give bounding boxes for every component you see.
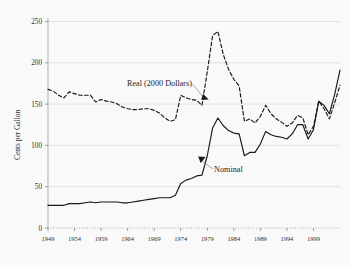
- series-line-nominal: [48, 70, 340, 205]
- x-tick-label-1969: 1969: [148, 235, 161, 242]
- x-tick-label-1999: 1999: [307, 235, 320, 242]
- y-axis-title: Cents per Gallon: [13, 110, 22, 160]
- y-tick-label-50: 50: [35, 183, 43, 191]
- x-tick-label-1989: 1989: [254, 235, 267, 242]
- x-tick-label-1959: 1959: [95, 235, 108, 242]
- y-tick-label-150: 150: [31, 101, 42, 109]
- y-tick-label-250: 250: [31, 18, 42, 26]
- annotation-real-label: Real (2000 Dollars): [127, 79, 192, 88]
- y-tick-label-200: 200: [31, 59, 42, 67]
- chart-canvas: 250 200 150 100 50 0 Cents per Gallon 19…: [0, 0, 350, 267]
- y-tick-label-0: 0: [38, 225, 42, 233]
- x-tick-label-1994: 1994: [281, 235, 295, 242]
- gridlines: [48, 22, 340, 187]
- annotation-nominal-label: Nominal: [214, 165, 243, 174]
- x-tick-label-1964: 1964: [121, 235, 135, 242]
- y-tickmarks: [45, 22, 48, 229]
- gasoline-price-chart-figure: 250 200 150 100 50 0 Cents per Gallon 19…: [0, 0, 350, 267]
- series-line-real: [48, 31, 340, 134]
- x-tickmarks: [48, 228, 314, 231]
- x-tick-label-1954: 1954: [68, 235, 82, 242]
- x-tick-label-1974: 1974: [174, 235, 188, 242]
- annotation-real: Real (2000 Dollars): [127, 79, 209, 100]
- x-tick-label-1984: 1984: [227, 235, 241, 242]
- x-tick-label-1949: 1949: [42, 235, 55, 242]
- y-tick-label-100: 100: [31, 142, 42, 150]
- x-tick-label-1979: 1979: [201, 235, 214, 242]
- scan-grain-overlay: [0, 0, 350, 267]
